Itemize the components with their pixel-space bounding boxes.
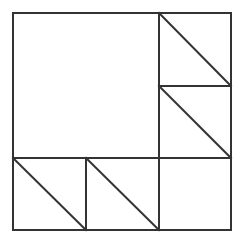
diagonal-bottom-middle-cell (86, 158, 159, 230)
diagonal-top-right-cell (159, 13, 231, 86)
diagonal-bottom-left-cell (13, 158, 86, 230)
tiling-diagram (0, 0, 247, 245)
diagonal-middle-right-cell (159, 86, 231, 158)
outer-square (13, 13, 231, 230)
